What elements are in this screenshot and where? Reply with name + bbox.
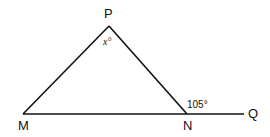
- label-p: P: [104, 6, 113, 21]
- angle-105-label: 105°: [187, 99, 208, 110]
- triangle-diagram: P M N Q x° 105°: [0, 0, 270, 137]
- segment-pn: [109, 26, 187, 114]
- segment-mp: [23, 26, 109, 114]
- label-n: N: [183, 118, 192, 133]
- angle-x-label: x°: [102, 36, 111, 47]
- label-m: M: [18, 118, 29, 133]
- label-q: Q: [248, 106, 258, 121]
